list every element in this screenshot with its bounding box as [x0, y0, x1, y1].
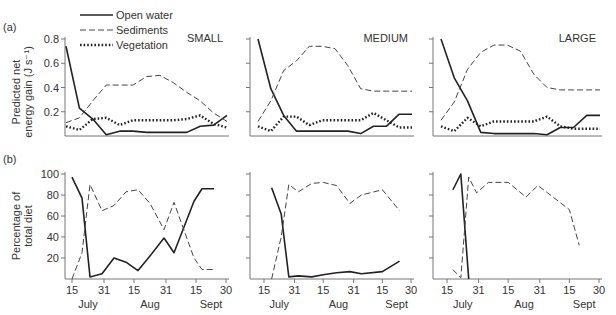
svg-text:Sept: Sept: [385, 298, 408, 310]
svg-text:100: 100: [41, 168, 59, 180]
svg-text:15: 15: [128, 284, 140, 296]
svg-text:40: 40: [47, 231, 59, 243]
series-sediments: [66, 75, 227, 122]
svg-text:0.4: 0.4: [44, 82, 59, 94]
svg-text:15: 15: [563, 284, 575, 296]
chart-b-medium: 153115311530JulyAugSept: [246, 172, 417, 310]
svg-text:July: July: [269, 298, 289, 310]
series-sediments: [453, 177, 579, 278]
svg-text:total diet: total diet: [22, 205, 34, 247]
series-vegetation: [258, 113, 412, 131]
series-open-water: [66, 46, 227, 135]
chart-a-large: LARGE: [429, 32, 602, 136]
panel-title: MEDIUM: [363, 32, 408, 44]
svg-text:20: 20: [47, 252, 59, 264]
svg-text:15: 15: [190, 284, 202, 296]
svg-text:Percentage of: Percentage of: [10, 191, 22, 260]
svg-text:Aug: Aug: [514, 298, 534, 310]
svg-text:30: 30: [220, 284, 232, 296]
legend-open-water: Open water: [116, 9, 173, 21]
svg-text:15: 15: [502, 284, 514, 296]
svg-text:15: 15: [258, 284, 270, 296]
series-vegetation: [441, 117, 600, 132]
svg-text:80: 80: [47, 189, 59, 201]
legend: Open water Sediments Vegetation: [80, 9, 173, 51]
svg-text:31: 31: [160, 284, 172, 296]
panel-title: LARGE: [559, 32, 596, 44]
series-open-water: [72, 177, 214, 277]
svg-text:15: 15: [376, 284, 388, 296]
svg-text:15: 15: [66, 284, 78, 296]
svg-text:31: 31: [288, 284, 300, 296]
chart-b-small: 20406080100153115311530JulyAugSept: [41, 168, 232, 310]
svg-text:31: 31: [98, 284, 110, 296]
svg-text:30: 30: [405, 284, 417, 296]
figure: (a) (b) Predicted net energy gain (J s⁻¹…: [0, 0, 616, 315]
svg-text:30: 30: [593, 284, 605, 296]
ylabel-b: Percentage of total diet: [10, 191, 34, 260]
svg-text:31: 31: [472, 284, 484, 296]
svg-text:0.8: 0.8: [44, 33, 59, 45]
panel-b-label: (b): [3, 153, 16, 165]
svg-text:15: 15: [441, 284, 453, 296]
series-open-water: [453, 174, 469, 279]
svg-text:31: 31: [348, 284, 360, 296]
svg-text:Aug: Aug: [329, 298, 349, 310]
svg-text:0.6: 0.6: [44, 57, 59, 69]
svg-text:15: 15: [317, 284, 329, 296]
legend-vegetation: Vegetation: [116, 39, 168, 51]
svg-text:energy gain (J s⁻¹): energy gain (J s⁻¹): [22, 46, 34, 138]
svg-text:Sept: Sept: [573, 298, 596, 310]
panel-title: SMALL: [187, 32, 223, 44]
svg-text:60: 60: [47, 210, 59, 222]
series-sediments: [441, 45, 600, 120]
series-open-water: [272, 188, 400, 277]
svg-text:July: July: [453, 298, 473, 310]
svg-text:31: 31: [534, 284, 546, 296]
ylabel-a: Predicted net energy gain (J s⁻¹): [10, 46, 34, 138]
legend-sediments: Sediments: [116, 24, 168, 36]
svg-text:Sept: Sept: [200, 298, 223, 310]
svg-text:Aug: Aug: [140, 298, 160, 310]
svg-text:0.2: 0.2: [44, 106, 59, 118]
svg-text:Predicted net: Predicted net: [10, 60, 22, 125]
chart-a-medium: MEDIUM: [246, 32, 414, 136]
svg-text:July: July: [78, 298, 98, 310]
panel-a-label: (a): [3, 21, 16, 33]
series-sediments: [272, 182, 400, 279]
chart-b-large: 153115311530JulyAugSept: [429, 172, 605, 310]
